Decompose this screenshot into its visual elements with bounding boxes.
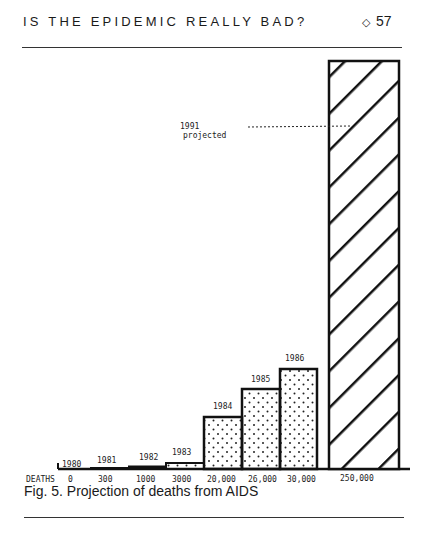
svg-text:30,000: 30,000 <box>287 475 316 484</box>
svg-text:1991: 1991 <box>180 122 199 131</box>
svg-text:1984: 1984 <box>213 402 232 411</box>
bar-1983 <box>166 463 204 469</box>
svg-text:projected: projected <box>183 131 227 140</box>
bar-1991-projected <box>329 61 399 469</box>
bar-1984 <box>204 417 242 469</box>
svg-text:250,000: 250,000 <box>340 474 374 483</box>
bar-1982 <box>128 466 166 470</box>
svg-text:1982: 1982 <box>139 453 158 462</box>
svg-text:1983: 1983 <box>172 448 191 457</box>
svg-text:1980: 1980 <box>62 460 81 469</box>
figure-caption: Fig. 5. Projection of deaths from AIDS <box>24 483 258 499</box>
bar-1986 <box>280 369 317 469</box>
bar-1981 <box>90 467 128 469</box>
svg-text:1981: 1981 <box>97 456 116 465</box>
footer-rule <box>24 517 404 518</box>
svg-text:1985: 1985 <box>251 375 270 384</box>
bar-chart: 1980 1981 1982 1983 1984 1985 1986 DEATH… <box>0 0 424 534</box>
bar-1985 <box>242 389 280 469</box>
svg-text:1986: 1986 <box>285 354 304 363</box>
